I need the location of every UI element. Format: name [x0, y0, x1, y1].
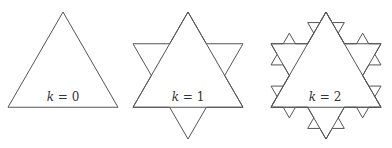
panel-k0: k = 0: [8, 12, 118, 107]
panel-k1: k = 1: [133, 12, 243, 139]
koch-snowflake-figure: k = 0 k = 1 k = 2: [0, 0, 392, 148]
label-equals: =: [316, 90, 334, 104]
label-variable: k: [309, 90, 316, 104]
label-value: 1: [197, 90, 205, 104]
panel-label-k2: k = 2: [309, 90, 342, 104]
label-variable: k: [47, 90, 54, 104]
label-value: 2: [334, 90, 342, 104]
koch-shape-k1: [133, 12, 243, 139]
panel-label-k1: k = 1: [172, 90, 205, 104]
label-value: 0: [72, 90, 80, 104]
label-equals: =: [179, 90, 197, 104]
panel-k2: k = 2: [271, 12, 381, 139]
label-equals: =: [54, 90, 72, 104]
label-variable: k: [172, 90, 179, 104]
koch-shape-k2: [271, 12, 381, 139]
star-outline-k1: [271, 12, 381, 139]
panel-label-k0: k = 0: [47, 90, 80, 104]
